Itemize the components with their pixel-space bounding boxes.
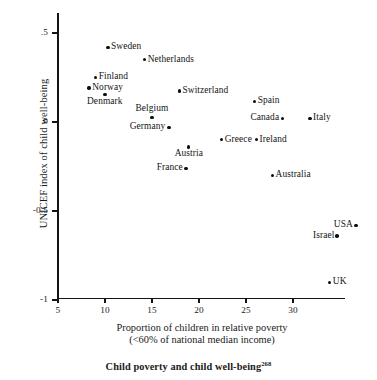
data-point — [328, 281, 331, 284]
data-point-label: Netherlands — [148, 54, 194, 64]
data-point-label: Austria — [175, 148, 203, 158]
data-point — [335, 234, 338, 237]
x-tick-label: 15 — [139, 305, 165, 315]
data-point — [106, 46, 109, 49]
x-tick-label: 20 — [186, 305, 212, 315]
data-point-label: Belgium — [136, 103, 169, 113]
data-point-label: Switzerland — [182, 85, 228, 95]
data-point — [94, 76, 97, 79]
data-point-label: Australia — [276, 169, 311, 179]
y-tick-mark — [52, 210, 57, 211]
data-point-label: Finland — [99, 71, 128, 81]
x-tick-label: 10 — [92, 305, 118, 315]
data-point-label: Sweden — [111, 41, 141, 51]
x-axis-title-line2: (<60% of national median income) — [57, 334, 347, 346]
data-point-label: Germany — [130, 121, 166, 131]
data-point-label: Denmark — [87, 96, 123, 106]
x-tick-mark — [57, 298, 58, 303]
x-axis-line — [57, 298, 345, 300]
x-axis-title-line1: Proportion of children in relative pover… — [57, 322, 347, 334]
figure-caption: Child poverty and child well-being268 — [0, 360, 377, 372]
x-axis-title: Proportion of children in relative pover… — [57, 322, 347, 346]
data-point — [354, 224, 357, 227]
y-axis-line — [57, 13, 59, 299]
x-tick-mark — [151, 298, 152, 303]
x-tick-mark — [198, 298, 199, 303]
data-point-label: USA — [334, 219, 353, 229]
y-tick-label: .5 — [18, 27, 48, 37]
data-point — [220, 138, 223, 141]
x-tick-label: 25 — [233, 305, 259, 315]
y-axis-title: UNICEF index of child well-being — [38, 49, 49, 259]
data-point — [271, 174, 274, 177]
data-point — [253, 100, 256, 103]
data-point — [143, 58, 146, 61]
y-tick-mark — [52, 299, 57, 300]
data-point — [281, 117, 284, 120]
data-point-label: Italy — [313, 112, 331, 122]
y-tick-label: -1 — [18, 294, 48, 304]
data-point — [184, 167, 187, 170]
y-tick-mark — [52, 32, 57, 33]
x-tick-mark — [245, 298, 246, 303]
data-point-label: Norway — [92, 82, 123, 92]
data-point-label: Greece — [225, 134, 252, 144]
figure-caption-note: 268 — [261, 360, 271, 367]
data-point — [308, 117, 311, 120]
x-tick-label: 30 — [280, 305, 306, 315]
data-point — [178, 89, 181, 92]
data-point-label: Ireland — [260, 134, 287, 144]
data-point — [150, 116, 153, 119]
data-point-label: France — [157, 162, 183, 172]
x-tick-mark — [104, 298, 105, 303]
data-point — [167, 126, 170, 129]
x-tick-label: 5 — [45, 305, 71, 315]
data-point-label: Canada — [250, 112, 279, 122]
child-poverty-scatter-figure: .50-0.5-1 51015202530 SwedenNetherlandsF… — [0, 0, 377, 380]
data-point-label: Israel — [313, 230, 334, 240]
data-point-label: UK — [333, 276, 347, 286]
data-point-label: Spain — [258, 95, 280, 105]
figure-caption-text: Child poverty and child well-being — [106, 361, 262, 372]
y-tick-mark — [52, 121, 57, 122]
x-tick-mark — [292, 298, 293, 303]
data-point — [87, 86, 90, 89]
data-point — [255, 138, 258, 141]
